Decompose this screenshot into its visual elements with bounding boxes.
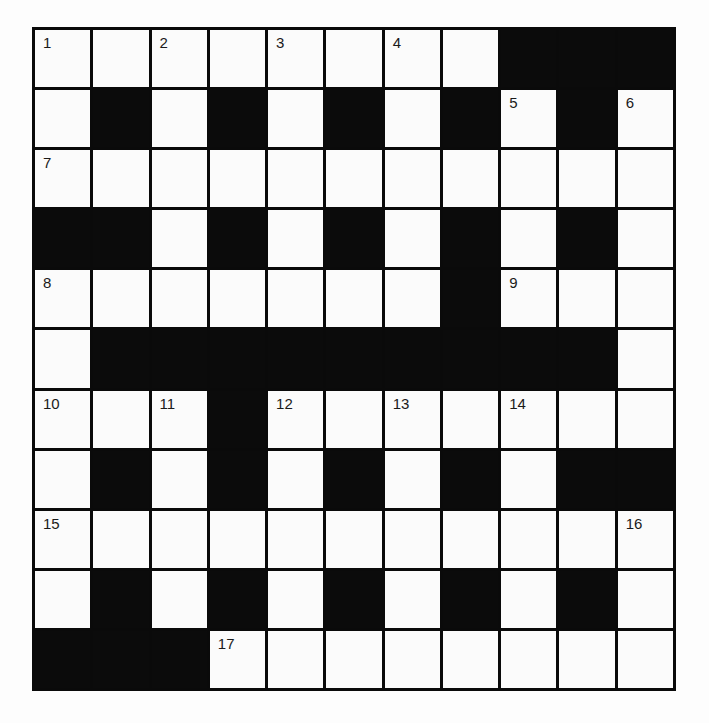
letter-input[interactable]	[210, 30, 265, 87]
letter-cell[interactable]	[326, 150, 381, 207]
letter-input[interactable]	[501, 631, 556, 688]
letter-cell[interactable]: 7	[35, 150, 90, 207]
letter-cell[interactable]	[326, 391, 381, 448]
letter-cell[interactable]: 10	[35, 391, 90, 448]
letter-input[interactable]	[618, 391, 673, 448]
letter-input[interactable]	[618, 210, 673, 267]
letter-input[interactable]	[385, 571, 440, 628]
letter-input[interactable]	[618, 511, 673, 568]
letter-input[interactable]	[35, 391, 90, 448]
letter-cell[interactable]	[385, 451, 440, 508]
letter-cell[interactable]	[501, 511, 556, 568]
letter-cell[interactable]	[443, 150, 498, 207]
letter-cell[interactable]: 4	[385, 30, 440, 87]
letter-cell[interactable]	[326, 270, 381, 327]
letter-input[interactable]	[210, 511, 265, 568]
letter-cell[interactable]	[618, 150, 673, 207]
letter-input[interactable]	[93, 150, 148, 207]
letter-input[interactable]	[268, 210, 323, 267]
letter-input[interactable]	[501, 150, 556, 207]
letter-input[interactable]	[385, 210, 440, 267]
letter-cell[interactable]	[443, 30, 498, 87]
letter-cell[interactable]	[210, 270, 265, 327]
letter-input[interactable]	[35, 270, 90, 327]
letter-input[interactable]	[152, 391, 207, 448]
letter-input[interactable]	[501, 270, 556, 327]
letter-cell[interactable]: 13	[385, 391, 440, 448]
letter-input[interactable]	[501, 511, 556, 568]
letter-cell[interactable]	[385, 90, 440, 147]
letter-cell[interactable]	[385, 571, 440, 628]
letter-cell[interactable]	[35, 90, 90, 147]
letter-input[interactable]	[152, 511, 207, 568]
letter-input[interactable]	[268, 631, 323, 688]
letter-cell[interactable]: 5	[501, 90, 556, 147]
letter-input[interactable]	[501, 451, 556, 508]
letter-cell[interactable]	[35, 451, 90, 508]
letter-input[interactable]	[559, 150, 614, 207]
letter-cell[interactable]	[559, 391, 614, 448]
letter-cell[interactable]	[268, 270, 323, 327]
letter-input[interactable]	[268, 451, 323, 508]
letter-input[interactable]	[210, 270, 265, 327]
letter-cell[interactable]	[152, 571, 207, 628]
letter-cell[interactable]: 8	[35, 270, 90, 327]
letter-input[interactable]	[152, 571, 207, 628]
letter-input[interactable]	[618, 270, 673, 327]
letter-cell[interactable]	[559, 511, 614, 568]
letter-input[interactable]	[385, 150, 440, 207]
letter-input[interactable]	[618, 571, 673, 628]
letter-cell[interactable]	[618, 391, 673, 448]
letter-input[interactable]	[385, 90, 440, 147]
letter-input[interactable]	[443, 631, 498, 688]
letter-cell[interactable]: 16	[618, 511, 673, 568]
letter-input[interactable]	[152, 30, 207, 87]
letter-cell[interactable]	[501, 451, 556, 508]
letter-input[interactable]	[385, 30, 440, 87]
letter-cell[interactable]	[268, 451, 323, 508]
letter-cell[interactable]	[152, 210, 207, 267]
letter-cell[interactable]	[152, 270, 207, 327]
letter-input[interactable]	[326, 631, 381, 688]
letter-cell[interactable]: 3	[268, 30, 323, 87]
letter-cell[interactable]	[210, 150, 265, 207]
letter-input[interactable]	[326, 150, 381, 207]
letter-input[interactable]	[93, 30, 148, 87]
letter-input[interactable]	[443, 30, 498, 87]
letter-cell[interactable]: 11	[152, 391, 207, 448]
letter-input[interactable]	[385, 391, 440, 448]
letter-input[interactable]	[35, 30, 90, 87]
letter-cell[interactable]	[268, 150, 323, 207]
letter-cell[interactable]: 6	[618, 90, 673, 147]
letter-cell[interactable]	[501, 631, 556, 688]
letter-input[interactable]	[326, 391, 381, 448]
letter-input[interactable]	[35, 511, 90, 568]
letter-cell[interactable]: 17	[210, 631, 265, 688]
letter-cell[interactable]	[326, 511, 381, 568]
letter-cell[interactable]	[385, 150, 440, 207]
letter-input[interactable]	[559, 270, 614, 327]
letter-cell[interactable]	[268, 571, 323, 628]
letter-input[interactable]	[152, 90, 207, 147]
letter-cell[interactable]: 12	[268, 391, 323, 448]
letter-input[interactable]	[385, 451, 440, 508]
letter-input[interactable]	[268, 30, 323, 87]
letter-cell[interactable]	[93, 150, 148, 207]
letter-cell[interactable]	[152, 90, 207, 147]
letter-input[interactable]	[559, 511, 614, 568]
letter-cell[interactable]	[443, 631, 498, 688]
letter-input[interactable]	[385, 270, 440, 327]
letter-input[interactable]	[35, 571, 90, 628]
letter-cell[interactable]	[152, 451, 207, 508]
letter-cell[interactable]	[268, 210, 323, 267]
letter-cell[interactable]	[93, 511, 148, 568]
letter-cell[interactable]: 14	[501, 391, 556, 448]
letter-input[interactable]	[210, 150, 265, 207]
letter-cell[interactable]	[385, 270, 440, 327]
letter-input[interactable]	[93, 511, 148, 568]
letter-cell[interactable]	[210, 30, 265, 87]
letter-input[interactable]	[501, 391, 556, 448]
letter-input[interactable]	[35, 90, 90, 147]
letter-input[interactable]	[618, 150, 673, 207]
letter-input[interactable]	[326, 30, 381, 87]
